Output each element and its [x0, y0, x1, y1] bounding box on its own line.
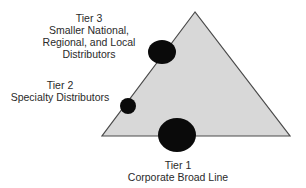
tier3-line-2: Regional, and Local [38, 36, 140, 48]
tier2-title: Tier 2 [2, 79, 118, 91]
tier3-title: Tier 3 [38, 12, 140, 24]
tier3-line-1: Smaller National, [38, 24, 140, 36]
tier3-marker [148, 40, 176, 64]
tier1-line-1: Corporate Broad Line [118, 171, 238, 183]
tier1-title: Tier 1 [118, 159, 238, 171]
tier3-line-3: Distributors [38, 48, 140, 60]
tier3-label: Tier 3 Smaller National, Regional, and L… [38, 12, 140, 60]
tier2-label: Tier 2 Specialty Distributors [2, 79, 118, 103]
tier1-marker [158, 118, 196, 152]
tier1-label: Tier 1 Corporate Broad Line [118, 159, 238, 183]
tier2-line-1: Specialty Distributors [2, 91, 118, 103]
tier2-marker [120, 98, 136, 114]
